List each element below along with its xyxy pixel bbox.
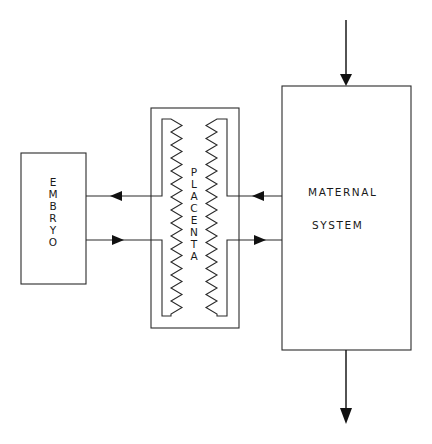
maternal-system-box bbox=[282, 86, 411, 350]
output-arrow-head-icon bbox=[340, 408, 352, 424]
arrow-left-to-embryo-icon bbox=[110, 191, 122, 201]
placenta-villi-right bbox=[206, 119, 218, 316]
embryo-label: EMBRYO bbox=[48, 176, 57, 248]
placenta-villi-left bbox=[170, 119, 182, 316]
placenta-label-letter: P bbox=[191, 166, 197, 178]
arrow-left-from-maternal-icon bbox=[252, 191, 264, 201]
placenta-label-letter: A bbox=[190, 190, 198, 202]
embryo-label-letter: B bbox=[49, 200, 56, 212]
placenta-label-letter: L bbox=[191, 178, 197, 190]
input-arrow-head-icon bbox=[340, 74, 352, 86]
placenta-right-channel-top bbox=[218, 119, 282, 196]
placenta-label: PLACENTA bbox=[190, 166, 199, 262]
placenta-label-letter: N bbox=[190, 226, 198, 238]
embryo-label-letter: Y bbox=[49, 224, 57, 236]
arrow-right-from-embryo-icon bbox=[112, 235, 124, 245]
embryo-label-letter: R bbox=[49, 212, 56, 224]
diagram-canvas: EMBRYO PLACENTA MATERNAL SYSTEM bbox=[0, 0, 432, 444]
system-label: SYSTEM bbox=[312, 219, 363, 231]
placenta-left-channel-top bbox=[86, 119, 170, 196]
placenta-label-letter: C bbox=[190, 202, 197, 214]
embryo-label-letter: M bbox=[48, 188, 57, 200]
embryo-label-letter: E bbox=[50, 176, 57, 188]
placenta-label-letter: T bbox=[190, 238, 198, 250]
placenta-left-channel-bottom bbox=[86, 240, 170, 316]
placenta-right-channel-bottom bbox=[218, 240, 282, 316]
maternal-label: MATERNAL bbox=[308, 186, 377, 198]
placenta-label-letter: E bbox=[191, 214, 198, 226]
arrow-right-to-maternal-icon bbox=[254, 235, 266, 245]
placenta-label-letter: A bbox=[190, 250, 198, 262]
embryo-label-letter: O bbox=[49, 236, 57, 248]
